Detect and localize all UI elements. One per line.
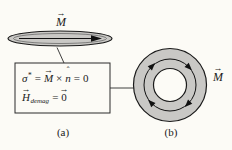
equation-line-2: →H demag = →0: [22, 92, 67, 103]
vector-arrow-icon: →: [21, 85, 30, 94]
equation-line-1: σ* = →M × ˆn = 0: [22, 73, 89, 84]
zero-value: 0: [83, 73, 89, 84]
disk-m-label: →M: [56, 16, 66, 28]
vector-arrow-icon: →: [214, 64, 223, 73]
demag-subscript: demag: [30, 98, 49, 105]
connector-disk-to-box: [57, 48, 64, 64]
ring-m-label: →M: [213, 71, 223, 83]
equals-sign: =: [52, 92, 58, 103]
figure-magnetization-diagram: →M σ* = →M × ˆn = 0 →H demag = →0 (a) →M…: [0, 0, 232, 150]
vector-arrow-icon: →: [60, 85, 69, 94]
panel-a-caption: (a): [50, 127, 76, 138]
cross-product-sign: ×: [56, 73, 62, 84]
vector-arrow-icon: →: [44, 66, 53, 75]
sigma-symbol: σ: [22, 73, 27, 84]
equals-sign: =: [74, 73, 80, 84]
equals-sign: =: [35, 73, 41, 84]
hat-accent-icon: ˆ: [67, 67, 70, 75]
sigma-star-superscript: *: [28, 72, 32, 80]
vector-arrow-icon: →: [57, 9, 66, 18]
ring-inner-circle: [154, 69, 187, 102]
panel-b-caption: (b): [158, 127, 184, 138]
